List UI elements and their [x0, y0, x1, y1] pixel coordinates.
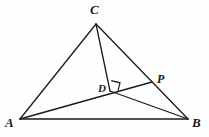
segment-side-CB [96, 24, 188, 119]
geometry-canvas [0, 0, 209, 137]
segment-DB [110, 91, 188, 119]
vertex-label-B: B [192, 116, 201, 129]
segment-side-AC [20, 24, 96, 119]
vertex-label-D: D [98, 83, 106, 94]
segment-AP [20, 82, 152, 119]
geometry-figure: A B C D P [0, 0, 209, 137]
right-angle-mark-icon [111, 81, 120, 91]
vertex-label-A: A [5, 116, 14, 129]
vertex-label-P: P [157, 73, 164, 85]
vertex-label-C: C [90, 3, 99, 16]
segment-cevian-CD [96, 24, 110, 91]
